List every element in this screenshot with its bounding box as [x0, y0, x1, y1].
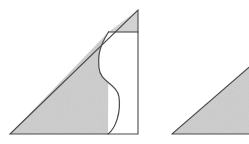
geometry-figure-canvas [0, 0, 249, 144]
right-white-region [108, 32, 138, 134]
